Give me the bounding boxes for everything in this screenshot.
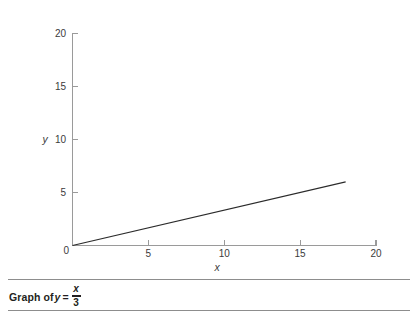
caption-fraction: x 3 (72, 284, 81, 307)
y-tick-label-10: 10 (55, 134, 67, 145)
caption-variable: y (54, 291, 62, 303)
x-tick-label-20: 20 (370, 248, 382, 259)
caption-block: Graph of y = x 3 (0, 276, 418, 324)
caption-equals: = (61, 291, 70, 303)
x-tick-label-10: 10 (219, 248, 231, 259)
figure-caption: Graph of y = x 3 (9, 285, 81, 309)
fraction-numerator: x (73, 284, 79, 295)
y-axis-title: y (41, 133, 48, 145)
data-series-line (73, 182, 346, 246)
chart-figure: 20 15 10 5 0 5 10 15 20 y x (0, 0, 418, 276)
caption-prefix: Graph of (9, 291, 54, 303)
x-tick-label-5: 5 (146, 248, 152, 259)
y-tick-label-15: 15 (55, 81, 67, 92)
y-tick-label-0: 0 (63, 245, 69, 256)
y-axis-tick-labels: 20 15 10 5 0 (55, 28, 70, 256)
y-axis-ticks (73, 34, 79, 193)
x-tick-label-15: 15 (295, 248, 307, 259)
x-axis-title: x (213, 261, 220, 273)
caption-rule-top (8, 279, 410, 280)
y-tick-label-5: 5 (60, 187, 66, 198)
caption-rule-bottom (8, 310, 410, 311)
y-tick-label-20: 20 (55, 28, 67, 39)
x-axis-tick-labels: 5 10 15 20 (146, 248, 382, 259)
plot-area: 20 15 10 5 0 5 10 15 20 y x (0, 0, 418, 276)
fraction-denominator: 3 (73, 297, 79, 308)
x-axis-ticks (148, 240, 376, 246)
